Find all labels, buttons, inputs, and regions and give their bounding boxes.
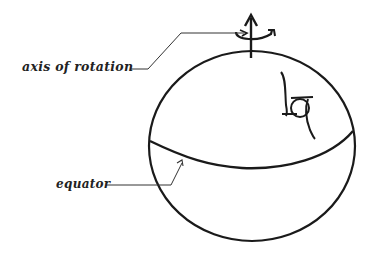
sphere-outline (149, 51, 355, 241)
equator-label: equator (56, 177, 111, 191)
hand-drawn-symbol-icon (281, 72, 315, 139)
axis-of-rotation-label: axis of rotation (22, 59, 133, 74)
equator-leader-arrowhead-icon (177, 160, 183, 166)
sphere-diagram: axis of rotation equator (0, 0, 376, 258)
diagram-drawing (0, 0, 376, 258)
equator-leader-line (106, 163, 182, 185)
axis-leader-line (130, 33, 244, 69)
equator-curve (150, 131, 353, 168)
